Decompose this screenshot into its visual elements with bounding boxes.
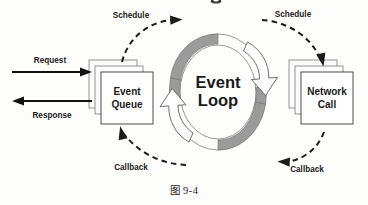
schedule-right-label: Schedule [275, 10, 312, 19]
schedule-left-edge: Schedule [113, 11, 183, 62]
event-loop-cycle: Event Loop [160, 34, 277, 150]
event-queue-node: Event Queue [89, 60, 153, 124]
schedule-left-arrowhead [170, 15, 183, 24]
callback-left-arrowhead [119, 126, 128, 140]
schedule-left-label: Schedule [113, 11, 150, 20]
callback-left-label: Callback [114, 163, 148, 172]
callback-right-arrowhead [278, 157, 291, 166]
loop-band-right [218, 102, 266, 150]
network-call-label-line1: Network [307, 86, 347, 97]
callback-left-edge: Callback [114, 126, 186, 172]
schedule-right-arc [262, 20, 320, 58]
event-queue-card-front [101, 72, 153, 124]
network-call-label-line2: Call [318, 99, 337, 110]
event-loop-label-line1: Event [196, 73, 241, 91]
callback-right-label: Callback [290, 165, 324, 174]
schedule-right-edge: Schedule [262, 10, 325, 67]
callback-right-edge: Callback [278, 132, 325, 174]
network-call-card-front [301, 72, 353, 124]
response-flow: Response [12, 96, 92, 120]
callback-left-arc [124, 134, 186, 165]
network-call-node: Network Call [289, 60, 353, 124]
event-queue-label-line2: Queue [111, 99, 143, 110]
response-label: Response [32, 111, 72, 120]
loop-to-queue-arrow [160, 89, 193, 143]
event-loop-diagram: Event Loop Event Queue Network Call Requ… [0, 0, 368, 205]
request-label: Request [34, 56, 67, 65]
event-loop-label-line2: Loop [198, 91, 238, 109]
event-queue-label-line1: Event [113, 86, 141, 97]
callback-right-arc [288, 132, 324, 162]
loop-to-network-arrow [244, 42, 278, 96]
schedule-left-arc [122, 20, 172, 62]
request-flow: Request [12, 56, 92, 77]
figure-caption: 图 9-4 [0, 182, 368, 197]
cropped-heading-remnant [211, 0, 221, 4]
figure-container: Event Loop Event Queue Network Call Requ… [0, 0, 368, 205]
